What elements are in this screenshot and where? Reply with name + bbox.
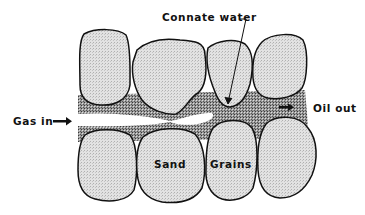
sand-grain — [80, 30, 130, 105]
grains-label: Grains — [210, 158, 252, 170]
gas-in-arrow — [53, 117, 72, 126]
oil-out-label: Oil out — [313, 102, 357, 114]
connate-water-label: Connate water — [162, 11, 257, 23]
pore-scale-diagram — [0, 0, 365, 215]
gas-in-label: Gas in — [13, 115, 53, 127]
sand-grain — [253, 35, 307, 99]
sand-grain — [78, 130, 137, 201]
sand-grain — [258, 117, 316, 198]
sand-label: Sand — [154, 158, 186, 170]
